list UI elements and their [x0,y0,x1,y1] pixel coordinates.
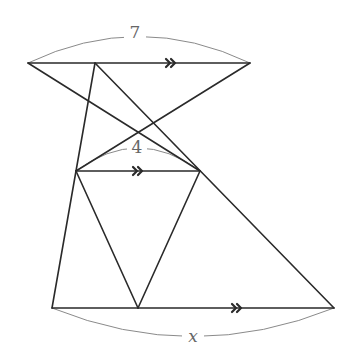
bottom-length-label: x [188,326,198,346]
segment-p-m [76,63,95,171]
segment-a-n [28,63,200,171]
geometry-diagram: 7 4 x [0,0,362,363]
segment-p-d [95,63,334,308]
segment-n-q [138,171,200,308]
middle-length-label: 4 [132,137,143,157]
segment-m-c [52,171,76,308]
top-length-label: 7 [130,22,141,42]
segment-b-m [76,63,250,171]
segment-m-q [76,171,138,308]
